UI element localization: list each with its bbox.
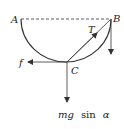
- physics-diagram: A B C T f mg sin α: [0, 0, 124, 129]
- point-b-label: B: [112, 13, 120, 24]
- friction-label: f: [18, 57, 25, 68]
- point-c-label: C: [71, 65, 79, 76]
- point-a-label: A: [10, 14, 18, 25]
- semicircle-track: [21, 19, 111, 62]
- gravity-component-label: mg sin α: [58, 104, 110, 121]
- tension-arrow: [67, 33, 97, 62]
- tension-label: T: [88, 24, 96, 35]
